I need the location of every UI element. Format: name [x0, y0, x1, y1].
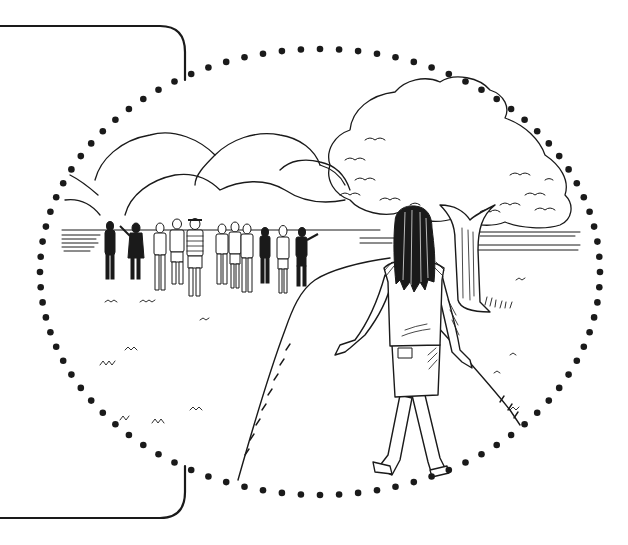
dot: [374, 487, 381, 494]
dot: [336, 46, 343, 53]
dot: [223, 59, 230, 66]
dot: [112, 117, 119, 124]
dot: [392, 54, 399, 61]
person: [120, 223, 144, 279]
dot: [126, 432, 133, 439]
person: [216, 224, 228, 284]
dot: [37, 269, 44, 276]
dot: [205, 473, 212, 480]
dot: [171, 78, 178, 85]
dot: [336, 491, 343, 498]
dot: [39, 299, 46, 306]
dot: [565, 166, 572, 173]
person: [154, 223, 166, 290]
dot: [556, 153, 563, 160]
dot: [428, 64, 435, 71]
dot: [37, 284, 44, 291]
dot: [596, 253, 603, 260]
dot: [68, 166, 75, 173]
dot: [586, 329, 593, 336]
dot: [581, 343, 588, 350]
dot: [594, 238, 601, 245]
dot: [521, 117, 528, 124]
large-tree: [329, 77, 571, 312]
dot: [53, 343, 60, 350]
dot: [68, 371, 75, 378]
person: [105, 222, 115, 280]
dot: [241, 483, 248, 490]
dot: [534, 409, 541, 416]
dot: [171, 459, 178, 466]
dot: [446, 467, 453, 474]
dot: [47, 209, 54, 216]
dot: [534, 128, 541, 135]
dot: [374, 50, 381, 57]
dot: [223, 479, 230, 486]
dot: [155, 87, 162, 94]
dot: [355, 490, 362, 497]
dot: [594, 299, 601, 306]
dot: [60, 358, 67, 365]
dot: [43, 223, 50, 230]
dot: [411, 479, 418, 486]
dot: [597, 269, 604, 276]
dot: [100, 409, 107, 416]
dot: [546, 397, 553, 404]
dot: [546, 140, 553, 147]
dot: [508, 106, 515, 113]
person: [296, 228, 318, 287]
dot: [126, 106, 133, 113]
dot: [591, 223, 598, 230]
dot: [298, 46, 305, 53]
dot: [556, 385, 563, 392]
person: [187, 219, 203, 297]
dot: [586, 209, 593, 216]
dot: [591, 314, 598, 321]
dot: [39, 238, 46, 245]
dot: [100, 128, 107, 135]
dot: [88, 140, 95, 147]
dot: [112, 421, 119, 428]
dot: [47, 329, 54, 336]
dot: [53, 194, 60, 201]
dotted-ellipse-border: [37, 46, 604, 499]
dot: [446, 71, 453, 78]
dot: [574, 180, 581, 187]
dot: [78, 153, 85, 160]
dot: [155, 451, 162, 458]
dot: [140, 442, 147, 449]
dot: [88, 397, 95, 404]
dot: [279, 490, 286, 497]
dot: [37, 253, 44, 260]
background-bushes: [65, 133, 350, 215]
person: [260, 228, 270, 284]
dot: [298, 491, 305, 498]
person: [241, 224, 253, 292]
dot: [188, 467, 195, 474]
dot: [60, 180, 67, 187]
dot: [43, 314, 50, 321]
dot: [581, 194, 588, 201]
dot: [462, 459, 469, 466]
dot: [596, 284, 603, 291]
dot: [392, 483, 399, 490]
dot: [260, 487, 267, 494]
dot: [317, 492, 324, 499]
dot: [478, 451, 485, 458]
person: [277, 226, 289, 294]
dot: [462, 78, 469, 85]
dot: [260, 50, 267, 57]
person: [170, 219, 184, 284]
dot: [478, 87, 485, 94]
dot: [355, 48, 362, 55]
girl-walking: [335, 206, 472, 477]
dot: [493, 96, 500, 103]
person: [229, 222, 241, 288]
dot: [78, 385, 85, 392]
dot: [565, 371, 572, 378]
dot: [188, 71, 195, 78]
dot: [205, 64, 212, 71]
dot: [241, 54, 248, 61]
dot: [574, 358, 581, 365]
illustration: [0, 0, 628, 545]
